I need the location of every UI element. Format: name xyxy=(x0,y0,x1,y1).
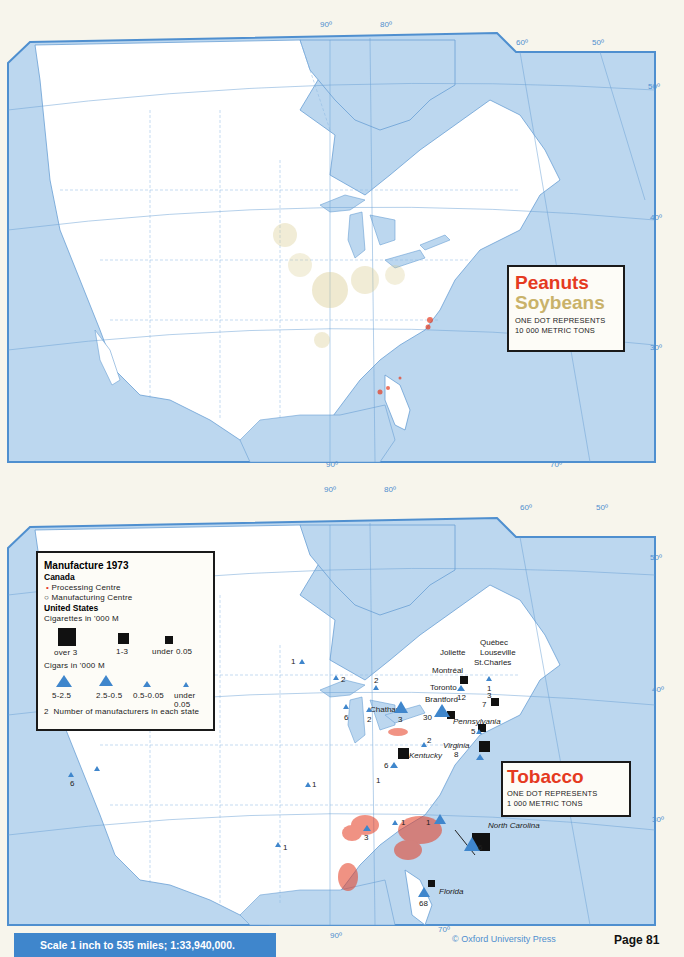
lat-label-50-right: 50º xyxy=(648,82,660,91)
manufacture-legend: Manufacture 1973 Canada • Processing Cen… xyxy=(36,551,215,731)
lon-label-70-bottom: 70º xyxy=(550,460,562,469)
page-number: Page 81 xyxy=(614,933,659,947)
legend-cigars-heading: Cigars in '000 M xyxy=(44,661,213,670)
cigar-marker-pennsylvania xyxy=(434,704,450,717)
dot-note-line1: ONE DOT REPRESENTS xyxy=(515,316,623,325)
state-florida: Florida xyxy=(439,887,463,896)
cigarette-class-under-005: under 0.05 xyxy=(152,647,192,656)
copyright: © Oxford University Press xyxy=(452,934,556,944)
count-minnesota: 1 xyxy=(291,657,295,666)
legend-us-heading: United States xyxy=(44,603,213,613)
cigar-marker-illinois xyxy=(343,704,349,709)
lat-label-50-right: 50º xyxy=(650,553,662,562)
cigarette-marker-connecticut xyxy=(491,698,499,706)
count-alabama: 3 xyxy=(364,833,368,842)
state-pennsylvania: Pennsylvania xyxy=(453,717,501,726)
count-illinois: 6 xyxy=(344,713,348,722)
lon-label-50: 50º xyxy=(596,503,608,512)
count-virginia: 8 xyxy=(454,750,458,759)
count-new-jersey: 5 xyxy=(471,727,475,736)
dot-note-line1: ONE DOT REPRESENTS xyxy=(507,789,629,798)
cigar-small-triangle-icon xyxy=(183,682,189,687)
cigarette-class-over-3: over 3 xyxy=(54,648,77,657)
cigar-marker-ohio xyxy=(394,701,408,713)
city-louseville: Louseville xyxy=(480,648,516,657)
soybeans-title: Soybeans xyxy=(515,293,623,313)
peanuts-title: Peanuts xyxy=(515,273,623,293)
count-michigan: 2 xyxy=(374,676,378,685)
dot-note-line2: 10 000 METRIC TONS xyxy=(515,326,623,335)
cigar-marker-minnesota xyxy=(299,659,305,664)
cigarette-medium-square-icon xyxy=(118,633,129,644)
count-florida: 68 xyxy=(419,899,428,908)
city-joliette: Joliette xyxy=(440,648,465,657)
cigar-class-05-005: 0.5-0.05 xyxy=(133,691,164,700)
lon-label-70-bottom: 70º xyxy=(438,925,450,934)
count-south-carolina: 1 xyxy=(426,818,430,827)
legend-canada-heading: Canada xyxy=(44,572,213,582)
cigar-marker-florida xyxy=(418,887,430,897)
dot-note-line2: 1 000 METRIC TONS xyxy=(507,799,629,808)
count-indiana: 2 xyxy=(367,715,371,724)
count-pennsylvania: 30 xyxy=(423,713,432,722)
count-new-york: 12 xyxy=(457,693,466,702)
lon-label-80: 80º xyxy=(384,485,396,494)
count-ohio: 3 xyxy=(398,715,402,724)
tobacco-map: 90º 80º 60º 50º 90º 70º 50º 40º 30º Manu… xyxy=(0,485,684,930)
processing-dot-icon: • xyxy=(46,583,49,592)
cigarette-small-square-icon xyxy=(165,636,173,644)
cigar-marker-california xyxy=(68,772,74,777)
peanuts-soybeans-legend: Peanuts Soybeans ONE DOT REPRESENTS 10 0… xyxy=(507,265,625,352)
cigarette-class-1-3: 1-3 xyxy=(116,647,128,656)
lon-label-90-bottom: 90º xyxy=(330,931,342,940)
city-brantford: Brantford xyxy=(425,695,458,704)
cigar-marker-south-carolina xyxy=(434,814,446,824)
cigar-largest-triangle-icon xyxy=(56,675,72,687)
count-tennessee: 1 xyxy=(376,776,380,785)
cigar-marker-texas xyxy=(275,842,281,847)
cigarette-large-square-icon xyxy=(58,628,76,646)
count-west-virginia: 2 xyxy=(427,736,431,745)
manufacturing-circle-icon: ○ xyxy=(44,593,49,602)
cigar-marker-michigan xyxy=(373,685,379,690)
lon-label-80: 80º xyxy=(380,20,392,29)
cigarette-marker-kentucky xyxy=(398,748,409,759)
state-virginia: Virginia xyxy=(443,741,470,750)
cigar-class-25-05: 2.5-0.5 xyxy=(96,691,122,700)
lon-label-90: 90º xyxy=(324,485,336,494)
cigar-marker-new-jersey xyxy=(476,729,482,734)
lon-label-60: 60º xyxy=(516,38,528,47)
cigar-marker-alabama xyxy=(363,825,371,831)
cigar-marker-georgia xyxy=(392,820,398,825)
legend-cigarettes-heading: Cigarettes in '000 M xyxy=(44,614,213,623)
lon-label-90-bottom: 90º xyxy=(326,460,338,469)
manufacturing-centre-label: Manufacturing Centre xyxy=(51,593,132,602)
cigarette-marker-florida xyxy=(428,880,435,887)
count-california: 6 xyxy=(70,779,74,788)
legend-title: Manufacture 1973 xyxy=(44,560,213,571)
lat-label-30-right: 30º xyxy=(650,343,662,352)
city-toronto: Toronto xyxy=(430,683,457,692)
manufacturer-note-number: 2 xyxy=(44,707,49,716)
cigar-large-triangle-icon xyxy=(99,675,113,686)
cigar-classes: 5-2.5 2.5-0.5 0.5-0.05 under 0.05 xyxy=(38,670,213,704)
cigar-marker-new-york xyxy=(457,685,465,691)
cigar-marker-virginia xyxy=(476,754,484,760)
count-georgia: 1 xyxy=(401,818,405,827)
count-wisconsin: 2 xyxy=(341,675,345,684)
lat-label-40-right: 40º xyxy=(652,685,664,694)
cigar-marker-wisconsin xyxy=(333,675,339,680)
lon-label-90: 90º xyxy=(320,20,332,29)
legend-manufacturing-centre: ○ Manufacturing Centre xyxy=(44,593,213,602)
cigar-marker-indiana xyxy=(366,707,372,712)
lon-label-50: 50º xyxy=(592,38,604,47)
state-kentucky: Kentucky xyxy=(409,751,442,760)
count-massachusetts: 3 xyxy=(487,691,491,700)
count-north-carolina: 6 xyxy=(478,843,482,852)
cigar-medium-triangle-icon xyxy=(143,681,151,687)
map-graphic xyxy=(0,0,684,470)
city-quebec: Québec xyxy=(480,638,508,647)
state-north-carolina: North Carolina xyxy=(488,821,540,830)
cigar-marker-nevada xyxy=(94,766,100,771)
city-st-charles: St.Charles xyxy=(474,658,511,667)
